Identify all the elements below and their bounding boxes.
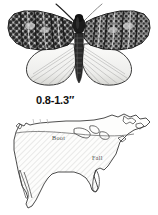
season-label-spring: Boot: [52, 134, 65, 141]
season-label-fall: Fall: [92, 154, 103, 161]
us-range-map: Boot Fall: [0, 112, 158, 215]
field-guide-plate: 0.8-1.3″: [0, 0, 158, 215]
moth-thorax: [73, 14, 86, 34]
specimen-size-label: 0.8-1.3″: [0, 94, 110, 106]
forewing-right: [84, 10, 150, 51]
hindwing-left: [26, 44, 76, 85]
moth-illustration-panel: [0, 0, 158, 92]
range-map-panel: Boot Fall: [0, 112, 158, 215]
range-hatch-fill: [0, 112, 158, 215]
moth-specimen: [0, 0, 158, 92]
moth-abdomen: [75, 33, 84, 83]
forewing-left: [8, 10, 74, 51]
hindwing-right: [82, 44, 132, 85]
